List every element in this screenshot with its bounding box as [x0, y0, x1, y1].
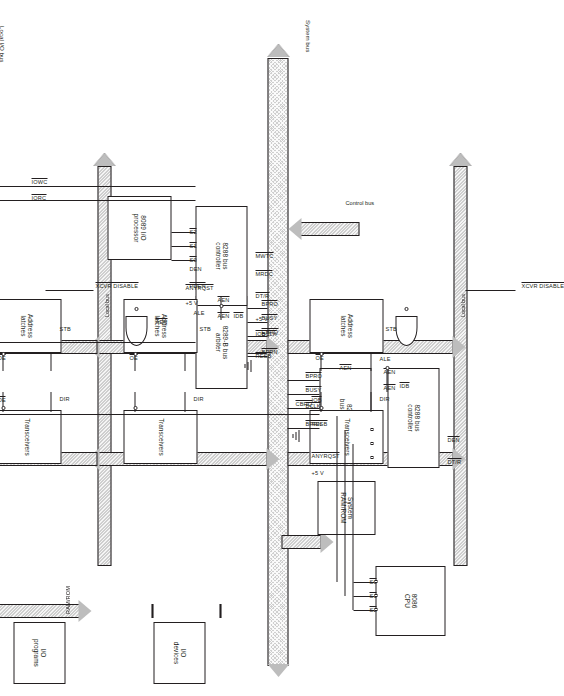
- wire-s-bus-a3: [336, 416, 337, 582]
- wire-10mhz-to-bclk-b: [0, 342, 195, 343]
- label-anyrqst-a: ANYRQST: [311, 452, 339, 459]
- wire-dir-c: [50, 392, 51, 412]
- block-8086-cpu[interactable]: 8086 CPU: [375, 566, 445, 636]
- wire-bprn-a: [287, 428, 319, 429]
- block-transceivers-c[interactable]: Transceivers: [0, 410, 61, 464]
- label-iowc: IOWC: [31, 178, 47, 185]
- local-bus-b-label: Local bus: [103, 294, 109, 317]
- pin-cpu-s2: [374, 608, 377, 611]
- local-bus-a-label: Local bus: [459, 294, 465, 317]
- block-8089-iop[interactable]: 8089 I/O processor: [107, 196, 171, 260]
- control-bus-bar: [299, 222, 359, 236]
- wire-bpro-b: [247, 308, 267, 309]
- wire-iowc: [0, 186, 195, 187]
- system-bus-bar: [267, 58, 288, 666]
- ground-symbol-a: [291, 430, 299, 442]
- block-8288-b-line2: controller: [214, 242, 221, 269]
- label-resb-a: RESB: [311, 420, 327, 427]
- label-idb-a: IDB: [399, 382, 409, 389]
- latches-a-line2: latches: [339, 316, 346, 337]
- label-vcc-b1: +5 V: [185, 300, 197, 306]
- label-dir-a: DIR: [379, 396, 389, 402]
- block-8086-cpu-line2: CPU: [403, 594, 410, 608]
- label-idb-b: IDB: [233, 312, 243, 319]
- pin-arb-a-s1: [370, 442, 373, 445]
- wire-busy-b: [247, 322, 267, 323]
- pin-cpu-s1: [374, 594, 377, 597]
- wire-ale-a: [370, 353, 371, 371]
- label-den-a: DEN: [447, 436, 459, 443]
- label-stb-a: STB: [385, 326, 396, 332]
- label-dir-b: DIR: [193, 396, 203, 402]
- iodev-trunk2: [151, 604, 153, 618]
- data-trunk-b-arrow: [266, 448, 279, 470]
- pin-cpu-s0: [374, 580, 377, 583]
- label-xcvr-disable-c: XCVR DISABLE: [95, 282, 138, 289]
- block-io-programs-ram-rom[interactable]: I/O programs: [13, 622, 65, 684]
- iop-line1: 8089 I/O: [139, 215, 146, 240]
- bubble-oe-xcvr-c: [1, 406, 5, 410]
- block-8288-b-line1: 8288 bus: [221, 242, 228, 269]
- iop-line2: processor: [132, 214, 139, 243]
- wire-iorc: [0, 200, 195, 201]
- block-io-devices[interactable]: I/O devices: [153, 622, 205, 684]
- wire-dir-a: [370, 392, 371, 412]
- label-ale-b: ALE: [193, 310, 204, 316]
- system-bus-arrowhead: [267, 44, 289, 57]
- nand-gate-a-bubble: [404, 307, 408, 311]
- local-io-bus-label: Local I/O bus: [0, 26, 5, 62]
- bubble-aen-b: [219, 304, 223, 308]
- label-aen-ctrl-b: AEN: [155, 318, 167, 325]
- block-8288-a-controller[interactable]: 8288 bus controller: [387, 368, 439, 468]
- latches-a-line1: Address: [346, 314, 353, 338]
- label-mwtc-b: MWTC: [255, 252, 273, 259]
- label-iorc: IORC: [31, 194, 46, 201]
- ground-symbol-b: [243, 360, 251, 372]
- nand-gate-b-bubble: [134, 307, 138, 311]
- local-bus-a-bar: [453, 166, 467, 566]
- wire-s-bus-a1: [352, 444, 353, 610]
- latches-c-line2: latches: [19, 316, 26, 337]
- system-bus-label: System bus: [304, 20, 311, 52]
- iomem-trunk-arrow-u: [78, 600, 91, 622]
- bubble-oe-latch-c: [1, 352, 5, 356]
- block-system-ram-rom[interactable]: System RAM/ROM: [317, 481, 375, 535]
- label-aen-b-out: AEN: [217, 296, 229, 303]
- block-8289-b-line2: arbiter: [214, 333, 221, 352]
- bubble-aen-a: [385, 366, 389, 370]
- wire-s-bus-a2: [344, 430, 345, 596]
- label-cbrq-a: CBRQ: [295, 400, 312, 407]
- label-vcc-a: +5 V: [311, 470, 323, 476]
- wire-bpro-a: [287, 380, 319, 381]
- bubble-oe-xcvr-b: [133, 406, 137, 410]
- block-address-latches-a[interactable]: Address latches: [309, 299, 383, 353]
- label-mrdc-b: MRDC: [255, 270, 272, 277]
- xcvr-b-line1: Transceivers: [156, 418, 163, 456]
- control-bus-arrowhead: [288, 218, 301, 240]
- label-dir-c: DIR: [59, 396, 69, 402]
- control-bus-label: Control bus: [345, 200, 385, 206]
- block-8289-b-line1: 8289-B bus: [221, 326, 228, 360]
- bubble-oe-latch-a: [319, 352, 323, 356]
- wire-dir-b: [184, 392, 185, 412]
- iodev-trunk: [219, 604, 221, 618]
- label-pden-b: PDEN: [189, 282, 205, 289]
- latches-c-line1: Address: [26, 314, 33, 338]
- block-8288-a-line2: controller: [406, 404, 413, 431]
- pin-arb-a-s0: [370, 428, 373, 431]
- block-address-latches-c[interactable]: Address latches: [0, 299, 61, 353]
- block-transceivers-b[interactable]: Transceivers: [123, 410, 197, 464]
- label-oe-c2: OE: [0, 396, 5, 403]
- bubble-oe-latch-b: [133, 352, 137, 356]
- block-8086-cpu-line1: 8086: [410, 594, 417, 609]
- iodev-line2: devices: [172, 642, 179, 664]
- iomem-line1: I/O: [39, 649, 46, 658]
- bubble-oe-xcvr-a: [319, 406, 323, 410]
- label-stb-c: STB: [59, 326, 70, 332]
- iomem-line2: programs: [32, 639, 39, 667]
- wire-xcvr-disable-a: [465, 290, 515, 291]
- wire-busy-a: [287, 394, 319, 395]
- label-aen-a-in: AEN: [383, 384, 395, 391]
